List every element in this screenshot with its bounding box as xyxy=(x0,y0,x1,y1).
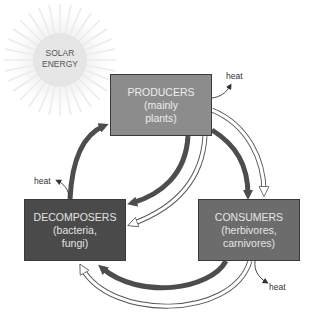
solar-label-line2: ENERGY xyxy=(33,59,87,70)
consumers-title: CONSUMERS xyxy=(215,211,283,224)
hollow-arrow-consumers-to-decomposers xyxy=(82,261,250,306)
arrow-producers-to-consumers xyxy=(212,130,248,195)
producers-box: PRODUCERS (mainly plants) xyxy=(110,74,212,136)
decomposers-box: DECOMPOSERS (bacteria, fungi) xyxy=(24,199,126,261)
heat-label-producers: heat xyxy=(226,71,243,81)
consumers-box: CONSUMERS (herbivores, carnivores) xyxy=(198,199,300,261)
heat-label-decomposers: heat xyxy=(34,176,51,186)
decomposers-subtitle-1: (bacteria, xyxy=(53,224,97,237)
heat-arrow-decomposers xyxy=(58,181,69,198)
ecosystem-cycle-diagram: SOLAR ENERGY PRODUCERS (mainly plants) D… xyxy=(0,0,314,330)
arrow-decomposers-to-producers xyxy=(70,126,104,199)
heat-arrow-consumers xyxy=(255,261,266,282)
decomposers-subtitle-2: fungi) xyxy=(62,237,88,250)
decomposers-title: DECOMPOSERS xyxy=(34,211,117,224)
consumers-subtitle-1: (herbivores, xyxy=(221,224,276,237)
producers-title: PRODUCERS xyxy=(127,86,194,99)
arrow-consumers-to-decomposers xyxy=(102,261,226,288)
producers-subtitle-2: plants) xyxy=(145,112,177,125)
producers-subtitle-1: (mainly xyxy=(144,99,178,112)
solar-energy-label: SOLAR ENERGY xyxy=(33,48,87,70)
heat-label-consumers: heat xyxy=(269,282,286,292)
solar-label-line1: SOLAR xyxy=(33,48,87,59)
consumers-subtitle-2: carnivores) xyxy=(223,237,275,250)
heat-arrow-producers xyxy=(212,86,230,98)
